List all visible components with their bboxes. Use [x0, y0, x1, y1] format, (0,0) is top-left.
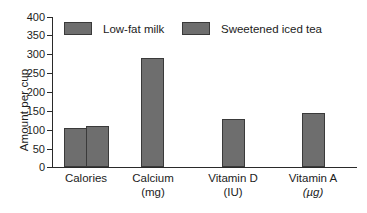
x-category-name-vitamin-d: Vitamin D	[208, 172, 258, 184]
legend-swatch-icon-low-fat-milk	[64, 22, 92, 35]
x-category-label-vitamin-a: Vitamin A (µg)	[273, 172, 353, 199]
y-tick-150	[47, 111, 53, 112]
x-category-name-calories: Calories	[65, 172, 107, 184]
legend-swatch-icon-sweetened-iced-tea	[182, 22, 210, 35]
y-tick-label-50: 50	[1, 143, 45, 155]
legend-label-sweetened-iced-tea: Sweetened iced tea	[221, 23, 322, 35]
legend-item-sweetened-iced-tea: Sweetened iced tea	[182, 22, 322, 35]
y-tick-50	[47, 149, 53, 150]
y-tick-label-100: 100	[1, 124, 45, 136]
legend-label-low-fat-milk: Low-fat milk	[103, 23, 164, 35]
y-tick-label-200: 200	[1, 86, 45, 98]
y-tick-label-400: 400	[1, 11, 45, 23]
bar-vitamin-a-low-fat-milk	[302, 113, 325, 167]
x-category-label-vitamin-d: Vitamin D (IU)	[193, 172, 273, 199]
x-category-unit-vitamin-d: (IU)	[193, 186, 273, 200]
y-tick-250	[47, 73, 53, 74]
y-tick-label-0: 0	[1, 161, 45, 173]
y-tick-100	[47, 130, 53, 131]
legend-item-low-fat-milk: Low-fat milk	[64, 22, 164, 35]
y-tick-400	[47, 17, 53, 18]
y-tick-0	[47, 167, 53, 168]
x-category-unit-vitamin-a: (µg)	[273, 186, 353, 200]
y-tick-label-150: 150	[1, 105, 45, 117]
x-axis-line	[52, 167, 357, 168]
y-tick-label-350: 350	[1, 29, 45, 41]
y-tick-300	[47, 54, 53, 55]
bar-chart-figure: Amount per cup 400 350 300 250 200 150 1…	[0, 0, 367, 213]
y-tick-label-300: 300	[1, 48, 45, 60]
y-tick-200	[47, 92, 53, 93]
y-tick-350	[47, 35, 53, 36]
y-tick-label-250: 250	[1, 67, 45, 79]
bar-calcium-low-fat-milk	[141, 58, 164, 167]
bar-vitamin-d-low-fat-milk	[222, 119, 245, 167]
bar-calories-sweetened-iced-tea	[86, 126, 109, 167]
x-category-name-vitamin-a: Vitamin A	[289, 172, 337, 184]
x-category-label-calcium: Calcium (mg)	[113, 172, 193, 199]
x-category-unit-calcium: (mg)	[113, 186, 193, 200]
bar-calories-low-fat-milk	[64, 128, 87, 167]
x-category-name-calcium: Calcium	[132, 172, 174, 184]
